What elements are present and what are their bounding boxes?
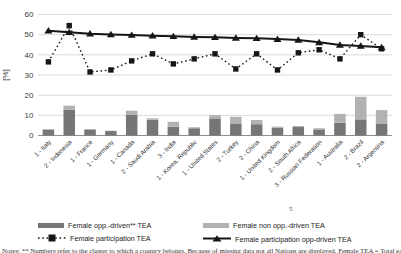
bar-non-opp-driven (147, 118, 159, 119)
bar-non-opp-driven (355, 97, 367, 120)
chart-svg: 0102030405060[%]1 - Italy2 - Indonesia1 … (0, 0, 401, 213)
legend-label: Female opp.-driven** TEA (68, 221, 151, 230)
legend-label: Female non opp.-driven TEA (233, 221, 325, 230)
bar-non-opp-driven (313, 128, 325, 129)
bar-opp-driven (355, 119, 367, 135)
figure-caption: Notes: ** Numbers refer to the cluster t… (2, 247, 401, 253)
square-marker (46, 59, 51, 64)
bar-non-opp-driven (209, 115, 221, 118)
bar-non-opp-driven (272, 127, 284, 128)
bar-opp-driven (334, 123, 346, 136)
square-marker (171, 61, 176, 66)
bar-non-opp-driven (126, 111, 137, 115)
legend-note-mark: 5 (289, 205, 293, 213)
bar-opp-driven (293, 127, 305, 135)
solid-line-triangle-marker-icon (203, 234, 231, 245)
bar-opp-driven (272, 128, 284, 136)
square-marker (150, 51, 155, 56)
square-marker (254, 51, 259, 56)
legend-item-participation-tea: Female participation TEA (38, 234, 151, 244)
bar-swatch-dark-icon (38, 223, 64, 228)
dotted-line-square-marker-icon (38, 234, 66, 244)
figure-chart: 0102030405060[%]1 - Italy2 - Indonesia1 … (0, 0, 401, 253)
bar-non-opp-driven (43, 129, 55, 130)
bar-non-opp-driven (188, 127, 200, 128)
y-axis-title: [%] (1, 69, 10, 81)
square-marker (337, 56, 342, 61)
bar-non-opp-driven (63, 106, 74, 110)
legend-item-opp-driven-bar: Female opp.-driven** TEA (38, 221, 151, 230)
bar-opp-driven (126, 115, 137, 136)
y-tick-label: 30 (25, 71, 34, 80)
bar-non-opp-driven (376, 110, 388, 123)
bar-opp-driven (230, 123, 242, 135)
square-marker (87, 69, 92, 74)
bar-opp-driven (84, 129, 96, 135)
square-marker (358, 32, 363, 37)
square-marker (67, 23, 72, 28)
y-tick-label: 40 (25, 51, 34, 60)
legend-label: Female participation opp-driven TEA (235, 235, 352, 244)
bar-opp-driven (105, 131, 117, 135)
participation-tea-line (48, 26, 381, 72)
bar-opp-driven (188, 128, 200, 135)
square-marker (191, 56, 196, 61)
y-tick-label: 60 (25, 10, 34, 19)
bar-non-opp-driven (251, 120, 263, 124)
bar-non-opp-driven (334, 114, 346, 123)
legend-item-non-opp-bar: Female non opp.-driven TEA (203, 221, 325, 230)
bar-swatch-light-icon (203, 223, 229, 228)
y-tick-label: 0 (29, 131, 34, 140)
square-marker (296, 50, 301, 55)
y-tick-label: 10 (25, 111, 34, 120)
y-tick-label: 20 (25, 91, 34, 100)
legend-item-participation-opp-driven: Female participation opp-driven TEA (203, 234, 352, 245)
square-marker (233, 66, 238, 71)
legend-label: Female participation TEA (70, 234, 151, 243)
x-axis-label: 2 - Turkey (215, 138, 241, 164)
square-marker (129, 58, 134, 63)
bar-non-opp-driven (230, 117, 242, 124)
bar-opp-driven (313, 129, 325, 135)
bar-opp-driven (376, 123, 388, 135)
bar-opp-driven (63, 110, 74, 136)
square-marker (108, 67, 113, 72)
square-marker (275, 67, 280, 72)
square-marker (212, 51, 217, 56)
bar-opp-driven (168, 127, 180, 136)
bar-opp-driven (147, 120, 159, 136)
bar-non-opp-driven (293, 126, 305, 127)
bar-non-opp-driven (168, 122, 180, 127)
y-tick-label: 50 (25, 30, 34, 39)
bar-opp-driven (209, 118, 221, 135)
bar-opp-driven (43, 130, 55, 136)
bar-opp-driven (251, 124, 263, 135)
square-marker (316, 47, 321, 52)
